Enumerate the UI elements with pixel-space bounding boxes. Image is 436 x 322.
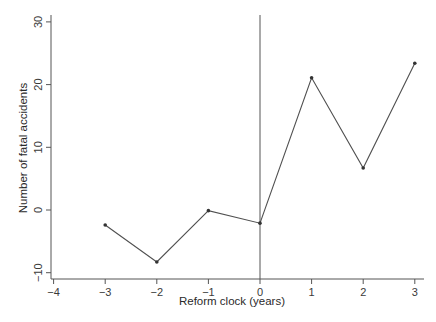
y-tick-label: 20 [32,78,44,90]
data-point-marker [310,76,314,80]
data-point-marker [155,260,159,264]
x-tick-label: −4 [47,286,60,298]
y-axis: −100102030 [32,15,51,282]
y-tick-label: 0 [32,207,44,213]
data-point-marker [207,209,211,213]
x-tick-label: −3 [99,286,112,298]
data-point-marker [361,166,365,170]
data-point-marker [103,223,107,227]
x-tick-label: −2 [151,286,164,298]
y-axis-title: Number of fatal accidents [17,83,29,214]
y-tick-label: −10 [32,263,44,282]
x-axis-title: Reform clock (years) [179,295,285,307]
line-chart: −100102030 −4−3−2−10123 Reform clock (ye… [0,0,436,322]
y-tick-label: 30 [32,16,44,28]
x-tick-label: 1 [309,286,315,298]
y-tick-label: 10 [32,141,44,153]
x-tick-label: 3 [412,286,418,298]
data-point-marker [258,221,262,225]
data-point-marker [413,61,417,65]
x-tick-label: 2 [360,286,366,298]
